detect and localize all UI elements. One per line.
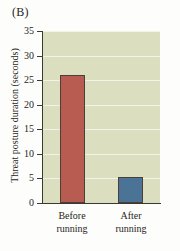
x-tick-label: Afterrunning	[94, 209, 168, 235]
y-tick-mark	[37, 129, 43, 130]
bar	[118, 177, 143, 203]
y-tick-mark	[37, 203, 43, 204]
x-tick-label-line: After	[94, 209, 168, 222]
panel-label: (B)	[12, 5, 29, 19]
y-tick-mark	[37, 178, 43, 179]
x-axis-line	[42, 203, 161, 204]
gridline	[43, 31, 160, 32]
y-tick-label: 5	[4, 173, 34, 183]
figure-panel-b: (B) Threat posture duration (seconds) 05…	[0, 0, 180, 251]
y-tick-mark	[37, 56, 43, 57]
y-tick-label: 35	[4, 26, 34, 36]
y-tick-label: 15	[4, 124, 34, 134]
y-tick-label: 0	[4, 198, 34, 208]
bar	[60, 75, 85, 203]
y-tick-label: 20	[4, 100, 34, 110]
plot-area	[43, 31, 160, 203]
y-tick-label: 30	[4, 51, 34, 61]
x-tick-label-line: running	[94, 222, 168, 235]
gridline	[43, 56, 160, 57]
y-tick-mark	[37, 154, 43, 155]
y-tick-mark	[37, 31, 43, 32]
y-tick-label: 25	[4, 75, 34, 85]
y-tick-mark	[37, 105, 43, 106]
y-tick-mark	[37, 80, 43, 81]
y-tick-label: 10	[4, 149, 34, 159]
